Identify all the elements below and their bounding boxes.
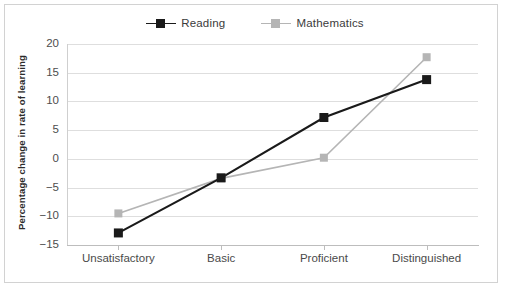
x-tick-proficient bbox=[324, 245, 325, 250]
y-tick-label-15: 15 bbox=[25, 66, 59, 78]
x-tick-distinguished bbox=[427, 245, 428, 250]
x-tick-label-distinguished: Distinguished bbox=[367, 252, 487, 264]
y-tick-label--15: −15 bbox=[25, 238, 59, 250]
y-tick-label-0: 0 bbox=[25, 152, 59, 164]
x-tick-basic bbox=[221, 245, 222, 250]
y-tick-labels: 20151050−5−10−15 bbox=[0, 0, 510, 287]
chart-figure: Reading Mathematics Percentage change in… bbox=[0, 0, 510, 287]
y-tick-label--10: −10 bbox=[25, 209, 59, 221]
x-tick-unsatisfactory bbox=[118, 245, 119, 250]
y-tick-label--5: −5 bbox=[25, 181, 59, 193]
y-tick-label-10: 10 bbox=[25, 94, 59, 106]
y-tick-label-20: 20 bbox=[25, 37, 59, 49]
y-tick-label-5: 5 bbox=[25, 123, 59, 135]
